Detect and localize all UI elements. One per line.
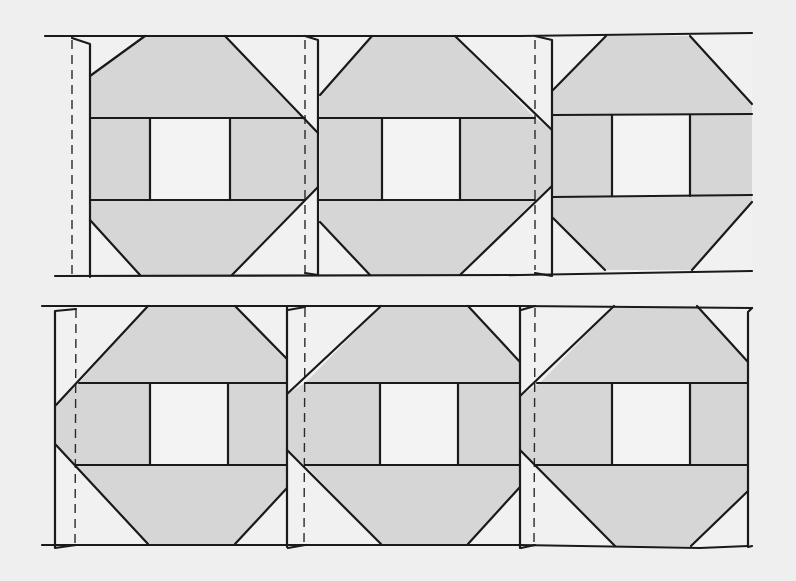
bottom-row: [42, 306, 752, 548]
center-square: [612, 383, 690, 465]
center-square: [150, 118, 230, 200]
top-row: [45, 33, 752, 277]
top-edge: [45, 33, 752, 36]
center-square: [150, 383, 228, 465]
band-line: [552, 114, 752, 115]
quilt-diagram: [0, 0, 796, 581]
center-square: [380, 383, 458, 465]
center-square: [382, 118, 460, 200]
right-edge: [748, 308, 752, 547]
center-square: [612, 115, 690, 196]
